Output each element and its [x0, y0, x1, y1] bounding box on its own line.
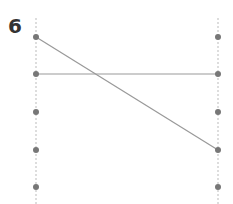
left-dot-3 [33, 147, 39, 153]
left-dot-4 [33, 184, 39, 190]
connection-line-0 [36, 37, 218, 150]
right-dot-4 [215, 184, 221, 190]
left-dot-1 [33, 71, 39, 77]
dotted-axes [36, 18, 218, 204]
connection-lines [36, 37, 218, 150]
matching-diagram [0, 0, 233, 204]
left-dot-2 [33, 109, 39, 115]
left-dot-0 [33, 34, 39, 40]
right-dot-1 [215, 71, 221, 77]
right-dot-0 [215, 34, 221, 40]
right-dot-2 [215, 109, 221, 115]
dot-points [33, 34, 221, 190]
right-dot-3 [215, 147, 221, 153]
